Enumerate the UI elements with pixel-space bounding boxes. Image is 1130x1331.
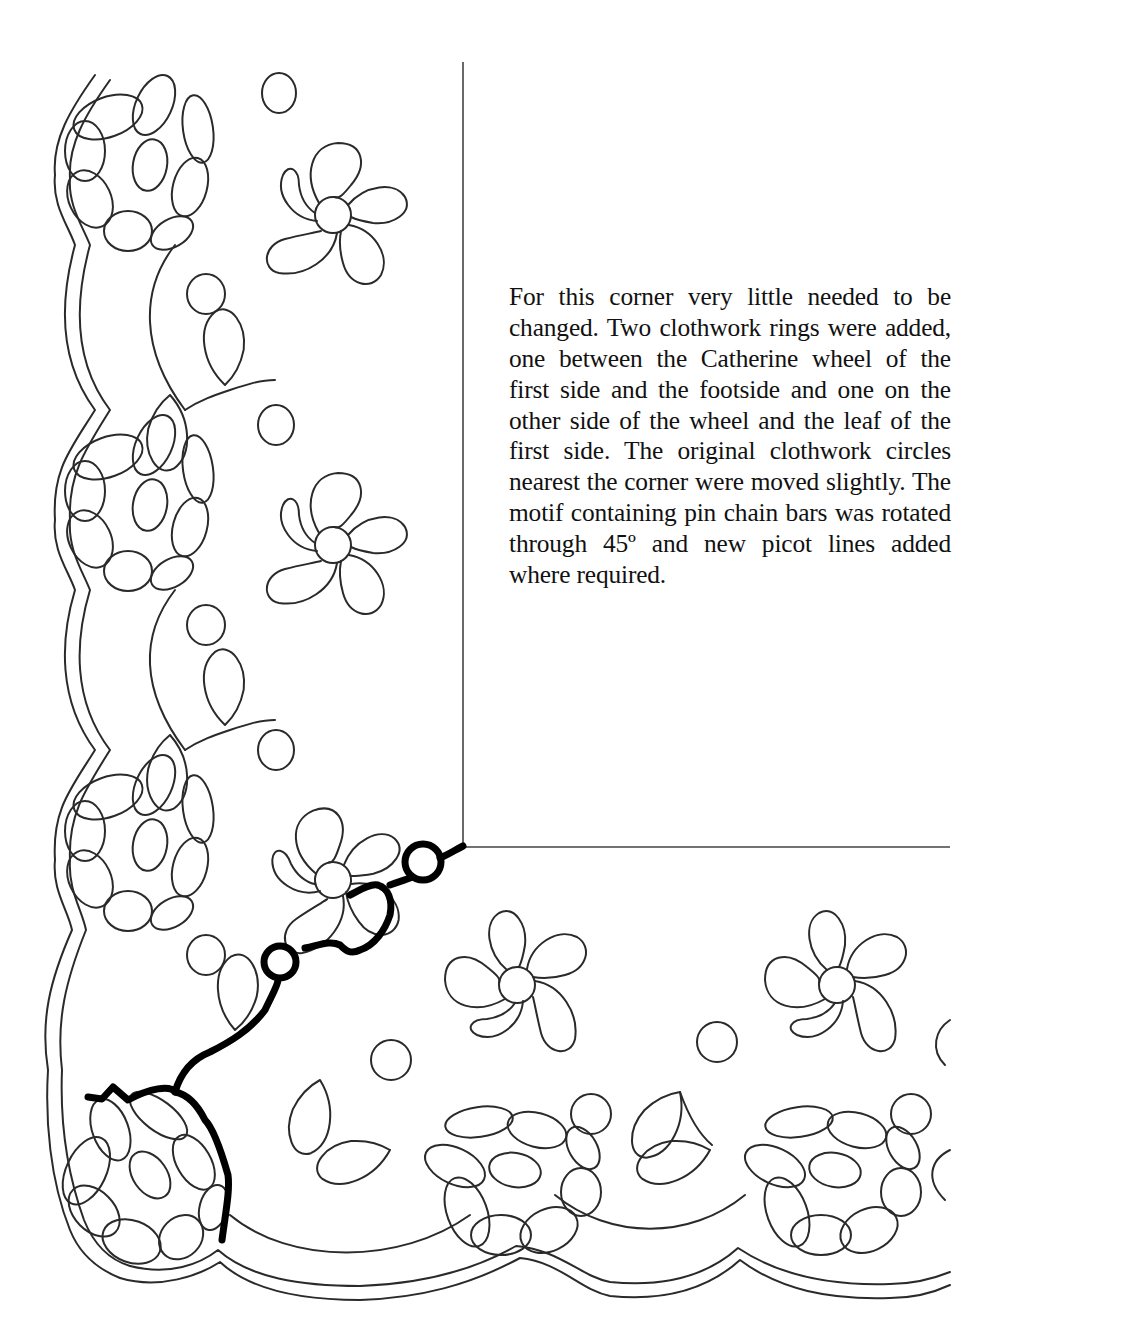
catherine-wheel-bottom-1 xyxy=(445,911,586,1051)
rosette-bottom-2 xyxy=(738,1102,926,1261)
footside-left xyxy=(45,75,185,1278)
catherine-wheel-left-top xyxy=(267,143,407,284)
clothwork-circles-left xyxy=(187,73,296,975)
catherine-wheel-left-middle xyxy=(267,473,407,614)
rosette-bottom-1 xyxy=(418,1102,606,1261)
catherine-wheel-bottom-2 xyxy=(765,911,906,1051)
rosette-left-middle xyxy=(58,408,217,596)
caption-text: For this corner very little needed to be… xyxy=(509,281,951,589)
clothwork-circles-bottom xyxy=(371,1022,931,1134)
leaves-left xyxy=(132,305,275,1032)
lace-corner-drawing xyxy=(0,0,1130,1331)
rosette-left-lower xyxy=(58,748,217,936)
footside-bottom xyxy=(120,1195,950,1300)
pattern-page: For this corner very little needed to be… xyxy=(0,0,1130,1331)
pin-chain-bars xyxy=(88,846,463,1240)
